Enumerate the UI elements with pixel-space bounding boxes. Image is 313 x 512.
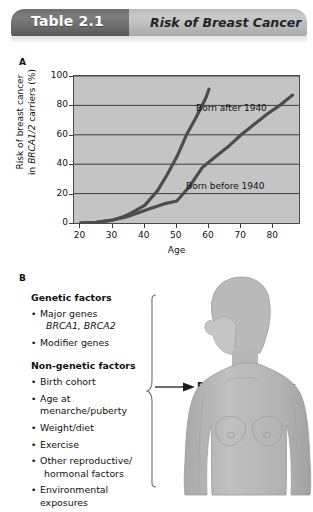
table-title: Risk of Breast Cancer [150, 15, 301, 30]
x-tick-mark [79, 224, 80, 228]
y-tick-mark [69, 194, 73, 195]
y-tick-label: 20 [40, 188, 68, 198]
x-tick-label: 40 [132, 230, 156, 240]
genetic-factor-item-subtext: BRCA1, BRCA2 [40, 320, 156, 332]
y-tick-label: 60 [40, 129, 68, 139]
x-tick-mark [144, 224, 145, 228]
nongenetic-factor-item: Age at menarche/puberty [31, 393, 156, 418]
x-tick-label: 70 [228, 230, 252, 240]
female-torso-silhouette-icon [174, 265, 313, 500]
table-header-band: Table 2.1 Risk of Breast Cancer [11, 9, 307, 36]
x-tick-label: 30 [100, 230, 124, 240]
nongenetic-factors-items: Birth cohortAge at menarche/pubertyWeigh… [31, 376, 156, 509]
nongenetic-factor-item: Exercise [31, 439, 156, 451]
table-number-label: Table 2.1 [31, 13, 104, 29]
x-tick-mark [240, 224, 241, 228]
y-tick-mark [69, 223, 73, 224]
nongenetic-factor-item: Birth cohort [31, 376, 156, 388]
nongenetic-factor-item-continuation: hormonal factors [40, 468, 156, 480]
y-tick-mark [69, 105, 73, 106]
genetic-factors-heading: Genetic factors [31, 292, 156, 304]
chart-y-axis-title: Risk of breast cancer in BRCA1/2 carrier… [14, 52, 38, 192]
chart-x-axis-title: Age [0, 245, 313, 255]
genetic-factor-item: Major genesBRCA1, BRCA2 [31, 308, 156, 333]
series-label-born-after-1940: Born after 1940 [196, 103, 267, 113]
genetic-factor-item-label: Major genes [40, 308, 97, 319]
genetic-factor-item: Modifier genes [31, 337, 156, 349]
nongenetic-factor-item-label: Other reproductive/ [40, 455, 132, 466]
nongenetic-factor-item-label: Birth cohort [40, 376, 96, 387]
y-tick-mark [69, 76, 73, 77]
x-tick-label: 60 [196, 230, 220, 240]
y-tick-mark [69, 135, 73, 136]
x-tick-mark [112, 224, 113, 228]
genetic-factors-items: Major genesBRCA1, BRCA2Modifier genes [31, 308, 156, 349]
nongenetic-factors-heading: Non-genetic factors [31, 360, 156, 372]
panel-b: Genetic factors Major genesBRCA1, BRCA2M… [0, 265, 313, 507]
nongenetic-factor-item-label: Weight/diet [40, 422, 94, 433]
x-tick-mark [208, 224, 209, 228]
y-tick-label: 80 [40, 99, 68, 109]
x-tick-label: 20 [67, 230, 91, 240]
x-tick-mark [272, 224, 273, 228]
nongenetic-factor-item-label: Age at menarche/puberty [40, 393, 127, 416]
series-label-born-before-1940: Born before 1940 [186, 181, 265, 191]
y-tick-mark [69, 164, 73, 165]
cropped-caption-row [0, 496, 313, 507]
chart-curves [74, 76, 299, 223]
x-tick-label: 50 [164, 230, 188, 240]
genetic-factor-item-label: Modifier genes [40, 337, 109, 348]
series-curve-1 [80, 89, 209, 223]
cropped-caption-text [16, 496, 19, 506]
nongenetic-factor-item: Weight/diet [31, 422, 156, 434]
header-underline [11, 36, 307, 42]
chart-panel-a: 020406080100 20304050607080 Age Risk of … [0, 50, 313, 265]
series-curve-2 [80, 95, 292, 223]
risk-factors-list: Genetic factors Major genesBRCA1, BRCA2M… [31, 292, 156, 512]
y-tick-label: 100 [40, 70, 68, 80]
x-tick-mark [176, 224, 177, 228]
y-tick-label: 0 [40, 217, 68, 227]
x-tick-label: 80 [260, 230, 284, 240]
y-tick-label: 40 [40, 158, 68, 168]
chart-plot-area [73, 75, 300, 224]
nongenetic-factor-item: Other reproductive/hormonal factors [31, 455, 156, 480]
nongenetic-factor-item-label: Exercise [40, 439, 79, 450]
